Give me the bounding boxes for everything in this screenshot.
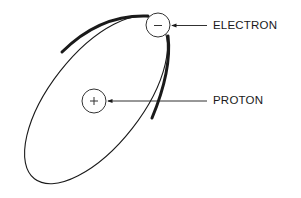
electron-label: ELECTRON bbox=[213, 20, 277, 32]
proton-particle bbox=[82, 89, 106, 113]
proton-label: PROTON bbox=[213, 95, 263, 107]
electron-particle bbox=[146, 13, 170, 37]
